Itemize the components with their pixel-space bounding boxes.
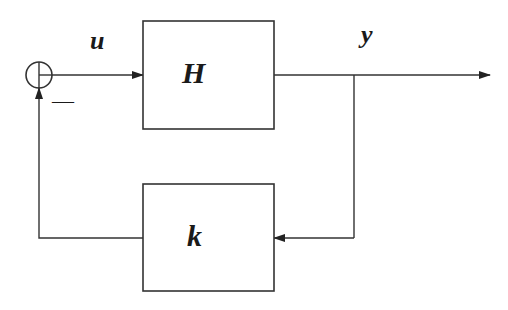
block-diagram [0, 0, 508, 310]
summing-junction [26, 62, 52, 88]
input-signal-label: u [90, 28, 104, 54]
plant-block-label: H [182, 58, 205, 88]
plant-block-h [143, 21, 274, 129]
output-signal-label: y [361, 22, 373, 48]
feedback-block-k [143, 184, 274, 291]
feedback-block-label: k [187, 221, 202, 251]
feedback-sign-minus: — [52, 90, 74, 112]
